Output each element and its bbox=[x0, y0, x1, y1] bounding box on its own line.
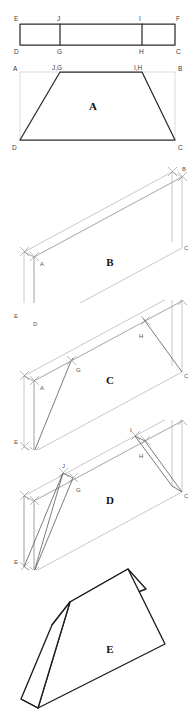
panel-a-drawing bbox=[0, 58, 195, 158]
panel-d-drawing bbox=[0, 420, 195, 570]
strip-drawing bbox=[0, 0, 195, 60]
figure-container: E J I F D G H C A B J,G I,H D C A bbox=[0, 0, 195, 720]
panel-b-drawing bbox=[0, 158, 195, 303]
panel-e-drawing bbox=[0, 555, 195, 715]
